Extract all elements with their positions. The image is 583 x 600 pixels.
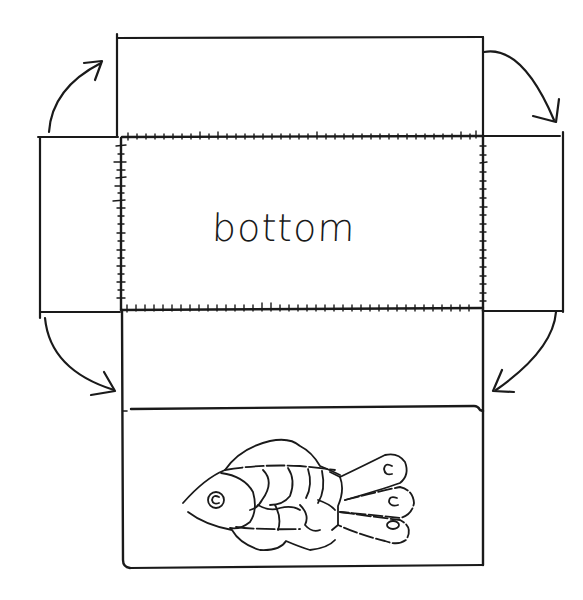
fish-illustration [183,440,414,550]
box-net-diagram [0,0,583,600]
left-flap [38,137,120,318]
fold-arrow-down-right [484,51,559,122]
tick-marks-left [113,145,126,298]
bottom-label: bottom [211,206,356,250]
front-panel [122,310,483,568]
fold-arrow-down-right-lower [493,312,556,392]
right-flap [483,132,563,312]
fold-arrow-up-left [49,61,102,132]
top-flap [117,34,483,136]
fold-arrow-down-left [45,318,115,395]
